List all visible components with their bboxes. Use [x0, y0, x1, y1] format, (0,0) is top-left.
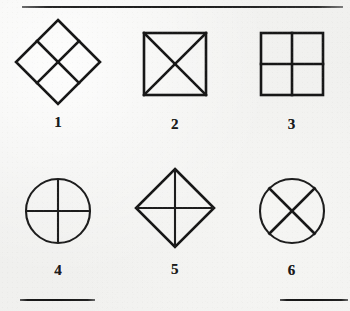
diamond-cross-icon	[127, 160, 223, 256]
figure-label-1: 1	[54, 115, 62, 130]
figure-item-4: 4	[0, 153, 117, 292]
figure-item-6: 6	[233, 153, 350, 292]
figure-grid: 1 2 3	[0, 14, 350, 292]
figure-label-4: 4	[54, 263, 62, 278]
bottom-right-rule	[280, 299, 348, 301]
figure-item-2: 2	[117, 14, 234, 153]
figure-label-6: 6	[288, 263, 296, 278]
figure-label-5: 5	[171, 262, 179, 277]
square-cross-icon	[244, 16, 340, 112]
top-rule	[22, 6, 343, 8]
figure-item-5: 5	[117, 153, 234, 292]
circle-cross-icon	[10, 163, 106, 259]
bottom-left-rule	[20, 299, 95, 301]
figure-item-1: 1	[0, 14, 117, 153]
circle-x-icon	[244, 163, 340, 259]
diamond-quartered-icon	[10, 14, 106, 110]
square-x-icon	[127, 16, 223, 112]
figure-label-2: 2	[171, 117, 179, 132]
figure-label-3: 3	[288, 117, 296, 132]
figure-plate: 1 2 3	[0, 0, 350, 311]
figure-item-3: 3	[233, 14, 350, 153]
